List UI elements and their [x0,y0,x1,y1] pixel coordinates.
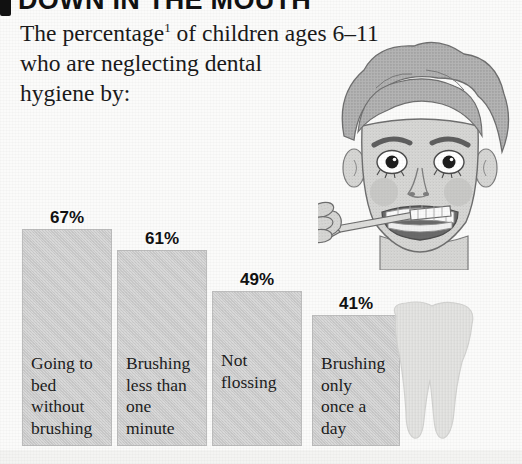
label-line: less than [126,375,187,395]
footer-rule [0,450,522,464]
label-line: one [126,396,151,416]
bar-value-label: 67% [23,208,111,228]
label-line: without [31,396,84,416]
child-brushing-teeth-illustration [318,40,522,270]
label-line: Going to [31,353,93,373]
label-line: only [321,375,352,395]
bar-category-label: Not flossing [221,350,297,393]
label-line: Brushing [126,353,190,373]
bar-category-label: Brushing less than one minute [126,353,202,439]
bar-group-2: 61% Brushing less than one minute [117,250,207,446]
label-line: brushing [31,418,92,438]
label-line: minute [126,418,175,438]
label-line: Not [221,350,247,370]
label-line: flossing [221,372,276,392]
label-line: Brushing [321,353,385,373]
label-line: once a [321,396,366,416]
bar-category-label: Going to bed without brushing [31,353,107,439]
bar-value-label: 61% [118,229,206,249]
bar-not-flossing[interactable]: 49% Not flossing [212,291,302,446]
infographic-page: DOWN IN THE MOUTH The percentage1 of chi… [0,0,522,464]
bar-group-1: 67% Going to bed without brushing [22,229,112,446]
label-line: day [321,418,346,438]
bar-going-to-bed-without-brushing[interactable]: 67% Going to bed without brushing [22,229,112,446]
molar-tooth-icon [382,300,482,446]
bar-brushing-less-than-one-minute[interactable]: 61% Brushing less than one minute [117,250,207,446]
bar-value-label: 49% [213,270,301,290]
bar-group-3: 49% Not flossing [212,291,302,446]
label-line: bed [31,375,56,395]
